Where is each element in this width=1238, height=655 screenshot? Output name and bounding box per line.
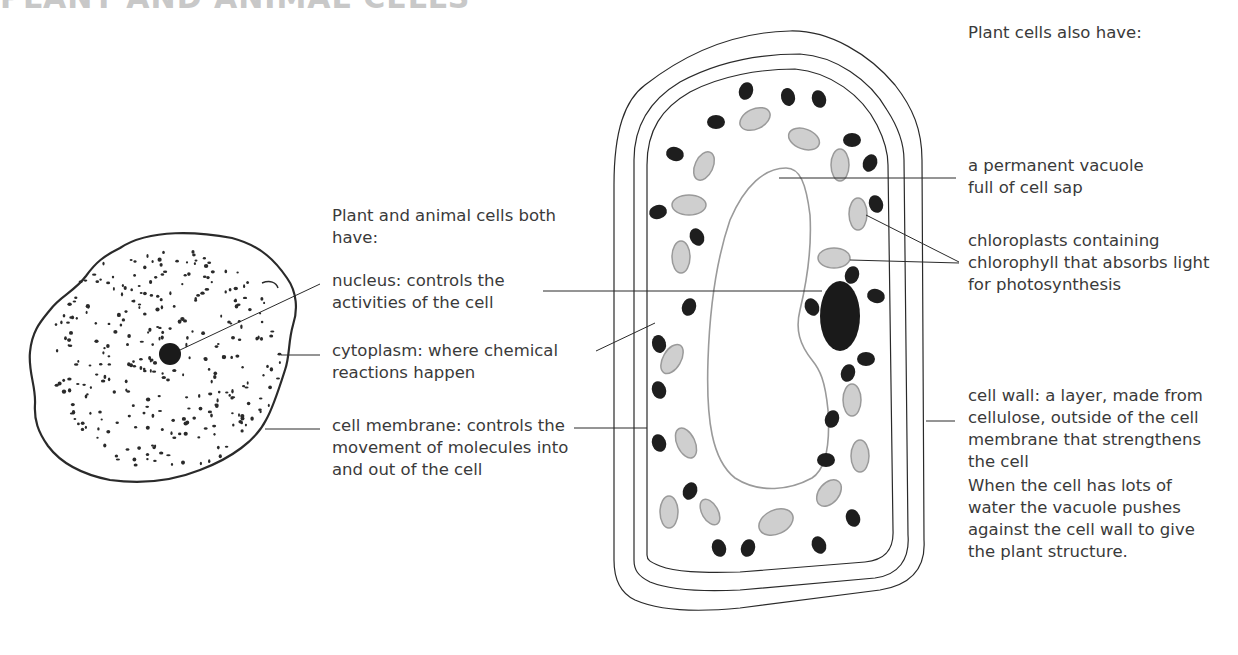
animal-cell bbox=[30, 233, 296, 482]
vacuole-note: When the cell has lots of water the vacu… bbox=[968, 475, 1218, 563]
plant-heading: Plant cells also have: bbox=[968, 22, 1228, 44]
chloroplasts-label: chloroplasts containing chlorophyll that… bbox=[968, 230, 1228, 296]
animal-nucleus bbox=[159, 343, 181, 365]
plant-nucleus bbox=[820, 281, 860, 351]
vacuole-label: a permanent vacuole full of cell sap bbox=[968, 155, 1168, 199]
plant-cell bbox=[614, 31, 924, 610]
nucleus-label: nucleus: controls the activities of the … bbox=[332, 270, 582, 314]
shared-heading: Plant and animal cells both have: bbox=[332, 205, 602, 249]
cell-membrane-label: cell membrane: controls the movement of … bbox=[332, 415, 572, 481]
cytoplasm-label: cytoplasm: where chemical reactions happ… bbox=[332, 340, 602, 384]
cell-wall-label: cell wall: a layer, made from cellulose,… bbox=[968, 385, 1218, 473]
